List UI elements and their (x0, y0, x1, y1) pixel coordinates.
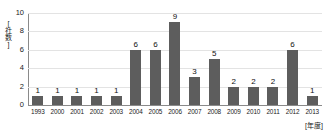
bar (91, 96, 102, 105)
y-axis-tick-label: 2 (4, 83, 24, 91)
x-axis-tick-label: 2007 (185, 108, 205, 116)
bar-value-label: 5 (204, 50, 224, 58)
bar (150, 50, 161, 105)
bar-chart: [社数] 0246810 111116693522261 19932000200… (0, 0, 326, 136)
bar-slot: 6 (146, 13, 166, 105)
bar (71, 96, 82, 105)
bar (189, 77, 200, 105)
x-axis-tick-label: 2006 (165, 108, 185, 116)
bar-value-label: 1 (67, 87, 87, 95)
bar-slot: 1 (302, 13, 322, 105)
bar-value-label: 2 (263, 78, 283, 86)
bar (228, 87, 239, 105)
bar-value-label: 3 (185, 68, 205, 76)
bar-slot: 5 (204, 13, 224, 105)
bar-slot: 2 (244, 13, 264, 105)
y-axis-tick-label: 0 (4, 101, 24, 109)
bar-slot: 2 (224, 13, 244, 105)
x-axis-tick-label: 2004 (126, 108, 146, 116)
bar-value-label: 2 (224, 78, 244, 86)
x-axis-tick-label: 2002 (87, 108, 107, 116)
bar-value-label: 1 (302, 87, 322, 95)
x-axis-tick-label: 2012 (283, 108, 303, 116)
bar-value-label: 6 (283, 41, 303, 49)
bar-slot: 1 (87, 13, 107, 105)
bar (248, 87, 259, 105)
bar-value-label: 1 (106, 87, 126, 95)
bar-value-label: 9 (165, 13, 185, 21)
bar-slot: 3 (185, 13, 205, 105)
y-axis-tick-label: 8 (4, 27, 24, 35)
bar-slot: 1 (106, 13, 126, 105)
bar-value-label: 6 (146, 41, 166, 49)
bar-slot: 6 (126, 13, 146, 105)
bar (169, 22, 180, 105)
bar (267, 87, 278, 105)
x-axis-tick-label: 2010 (244, 108, 264, 116)
bar-value-label: 1 (87, 87, 107, 95)
x-axis-tick-labels: 1993200020012002200320042005200620072008… (28, 108, 322, 120)
bar-slot: 1 (28, 13, 48, 105)
bar (52, 96, 63, 105)
x-axis-tick-label: 2008 (204, 108, 224, 116)
x-axis-tick-label: 2001 (67, 108, 87, 116)
bar (32, 96, 43, 105)
bar-slot: 6 (283, 13, 303, 105)
bar-slot: 1 (48, 13, 68, 105)
bar (111, 96, 122, 105)
bar-value-label: 6 (126, 41, 146, 49)
y-axis-tick-label: 4 (4, 64, 24, 72)
x-axis-tick-label: 1993 (28, 108, 48, 116)
bar (307, 96, 318, 105)
bar-value-label: 1 (28, 87, 48, 95)
bar-value-label: 2 (244, 78, 264, 86)
y-axis-tick-label: 10 (4, 9, 24, 17)
bar (209, 59, 220, 105)
bar-slot: 9 (165, 13, 185, 105)
x-axis-title: [年度] (305, 122, 323, 130)
x-axis-tick-label: 2003 (106, 108, 126, 116)
x-axis-tick-label: 2000 (48, 108, 68, 116)
bar-value-label: 1 (48, 87, 68, 95)
x-axis-tick-label: 2009 (224, 108, 244, 116)
x-axis-tick-label: 2005 (146, 108, 166, 116)
bar (287, 50, 298, 105)
x-axis-tick-label: 2013 (302, 108, 322, 116)
bar (130, 50, 141, 105)
bar-slot: 2 (263, 13, 283, 105)
bar-series: 111116693522261 (28, 13, 322, 106)
x-axis-tick-label: 2011 (263, 108, 283, 116)
bar-slot: 1 (67, 13, 87, 105)
y-axis-tick-label: 6 (4, 46, 24, 54)
